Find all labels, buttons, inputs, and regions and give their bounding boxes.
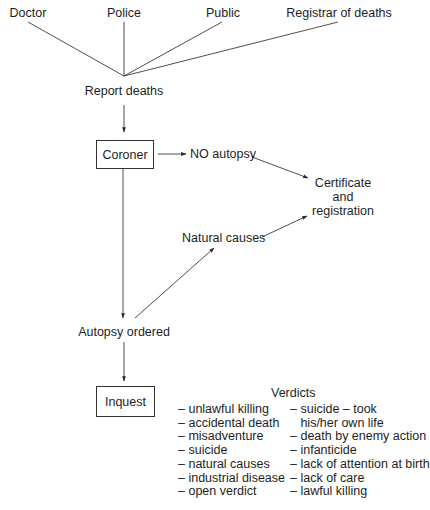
verdict-item: – natural causes (178, 458, 285, 472)
certificate-registration-node: Certificate and registration (312, 176, 374, 218)
no-autopsy-to-certificate-arrow (252, 157, 308, 178)
certificate-line-1: Certificate (312, 176, 374, 190)
verdicts-column-2: – suicide – took his/her own life – deat… (290, 403, 430, 499)
coroner-node: Coroner (96, 140, 154, 169)
verdict-item: – lack of attention at birth (290, 458, 430, 472)
inquest-label: Inquest (105, 395, 146, 409)
autopsy-ordered-label: Autopsy ordered (78, 325, 170, 339)
verdict-item: – unlawful killing (178, 403, 285, 417)
natural-causes-label: Natural causes (182, 231, 265, 245)
source-police: Police (107, 6, 141, 20)
verdict-item: – lawful killing (290, 485, 430, 499)
source-public: Public (206, 6, 240, 20)
verdict-item: – infanticide (290, 444, 430, 458)
public-connector (124, 22, 222, 76)
verdicts-column-1: – unlawful killing – accidental death – … (178, 403, 285, 499)
source-registrar: Registrar of deaths (286, 6, 392, 20)
verdicts-title: Verdicts (271, 386, 315, 400)
verdict-item: – suicide – took (290, 403, 430, 417)
inquest-node: Inquest (96, 386, 155, 417)
verdict-item: – lack of care (290, 472, 430, 486)
certificate-line-2: and (312, 190, 374, 204)
verdict-item: – suicide (178, 444, 285, 458)
source-doctor: Doctor (10, 6, 47, 20)
natural-causes-to-certificate-arrow (262, 216, 307, 237)
coroner-label: Coroner (102, 148, 147, 162)
verdict-item: – misadventure (178, 430, 285, 444)
no-autopsy-label: NO autopsy (190, 147, 256, 161)
report-deaths-label: Report deaths (85, 84, 164, 98)
certificate-line-3: registration (312, 204, 374, 218)
registrar-connector (124, 22, 338, 76)
verdict-item: – industrial disease (178, 472, 285, 486)
verdict-item: his/her own life (290, 417, 430, 431)
verdict-item: – open verdict (178, 485, 285, 499)
verdict-item: – death by enemy action (290, 430, 430, 444)
verdict-item: – accidental death (178, 417, 285, 431)
autopsy-to-natural-causes-arrow (135, 248, 214, 318)
doctor-connector (28, 22, 124, 76)
